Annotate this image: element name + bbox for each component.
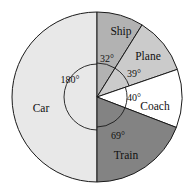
pie-chart-figure: Ship Plane Coach Train Car 32° 39° 40° 6… xyxy=(0,0,193,194)
slice-label-plane: Plane xyxy=(135,50,161,62)
angle-label-ship: 32° xyxy=(100,53,114,64)
slice-label-car: Car xyxy=(33,102,50,114)
slice-label-ship: Ship xyxy=(110,25,131,38)
slice-label-train: Train xyxy=(114,149,139,161)
pie-slices xyxy=(12,12,182,182)
pie-slice-car xyxy=(12,12,97,182)
angle-label-coach: 40° xyxy=(127,92,141,103)
angle-label-train: 69° xyxy=(111,130,125,141)
angle-label-plane: 39° xyxy=(127,68,141,79)
slice-label-coach: Coach xyxy=(140,100,170,112)
pie-chart-svg: Ship Plane Coach Train Car 32° 39° 40° 6… xyxy=(0,0,193,194)
angle-label-car: 180° xyxy=(61,74,80,85)
